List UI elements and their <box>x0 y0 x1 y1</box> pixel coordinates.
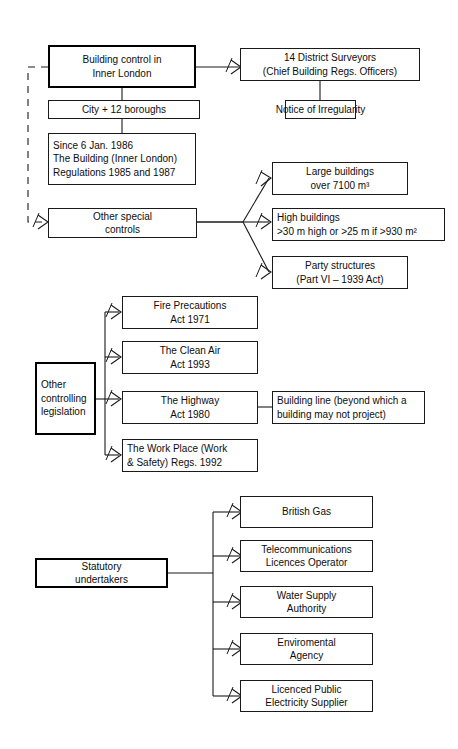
arrowtick-party <box>256 263 262 277</box>
arrowhead-workplace <box>111 448 121 462</box>
box-line: Large buildings <box>306 165 374 179</box>
box-line: The Building (Inner London) <box>53 152 177 166</box>
box-line: Act 1993 <box>170 358 209 372</box>
arrowhead-special <box>38 215 48 229</box>
box-line: undertakers <box>75 573 128 587</box>
box-line: City + 12 boroughs <box>82 103 166 117</box>
arrowtick-high <box>256 213 262 227</box>
arrowtick-workplace <box>106 446 112 460</box>
link-special-to-party <box>243 222 269 272</box>
box-line: High buildings <box>277 211 340 225</box>
arrowtick-telecom <box>227 547 233 561</box>
link-root-to-special-dashed <box>28 67 48 222</box>
box-line: controls <box>105 223 140 237</box>
box-line: Other special <box>93 210 152 224</box>
box-line: Agency <box>290 649 323 663</box>
box-line: Other <box>41 378 66 392</box>
box-highway-act[interactable]: The Highway Act 1980 <box>122 391 258 424</box>
box-line: Building control in <box>83 53 162 67</box>
box-line: legislation <box>41 405 85 419</box>
box-line: Since 6 Jan. 1986 <box>53 139 133 153</box>
arrowhead-highway <box>111 392 121 406</box>
box-high-buildings[interactable]: High buildings >30 m high or >25 m if >9… <box>272 208 445 241</box>
arrowtick-highway <box>106 390 112 404</box>
box-statutory-undertakers[interactable]: Statutory undertakers <box>35 558 168 588</box>
box-large-buildings[interactable]: Large buildings over 7100 m³ <box>272 162 408 195</box>
arrowtick-surveyors <box>226 58 232 72</box>
box-city-plus-12-boroughs[interactable]: City + 12 boroughs <box>48 100 200 119</box>
arrowtick-special <box>33 213 39 227</box>
box-line: 14 District Surveyors <box>284 51 376 65</box>
box-line: Telecommunications <box>261 543 352 557</box>
box-environmental-agency[interactable]: Enviromental Agency <box>240 633 373 665</box>
box-line: Act 1971 <box>170 313 209 327</box>
arrowtick-water <box>227 593 233 607</box>
box-line: Authority <box>287 602 326 616</box>
box-clean-air-act[interactable]: The Clean Air Act 1993 <box>122 341 258 374</box>
box-line: (Chief Building Regs. Officers) <box>263 65 397 79</box>
box-building-control-inner-london[interactable]: Building control in Inner London <box>48 45 196 88</box>
box-line: Party structures <box>305 259 375 273</box>
box-other-controlling-legislation[interactable]: Other controlling legislation <box>35 362 96 435</box>
box-line: over 7100 m³ <box>311 179 370 193</box>
box-british-gas[interactable]: British Gas <box>240 496 373 528</box>
box-line: Licences Operator <box>266 556 348 570</box>
box-line: Statutory <box>81 560 121 574</box>
box-line: Enviromental <box>277 636 335 650</box>
box-licenced-public-electricity-supplier[interactable]: Licenced Public Electricity Supplier <box>240 680 373 712</box>
arrowtick-gas <box>227 503 233 517</box>
box-party-structures[interactable]: Party structures (Part VI – 1939 Act) <box>272 256 408 289</box>
arrowtick-cleanair <box>106 348 112 362</box>
box-line: & Safety) Regs. 1992 <box>127 456 222 470</box>
box-line: Building line (beyond which a <box>277 394 407 408</box>
arrowhead-party <box>261 265 271 279</box>
arrowhead-large <box>261 172 271 186</box>
box-line: The Highway <box>161 394 219 408</box>
box-notice-of-irregularity[interactable]: Notice of Irregularity <box>285 100 356 119</box>
box-line: Act 1980 <box>170 408 209 422</box>
box-line: controlling <box>41 392 87 406</box>
box-line: building may not project) <box>277 408 386 422</box>
arrowtick-fire <box>106 303 112 317</box>
box-fire-precautions-act[interactable]: Fire Precautions Act 1971 <box>122 296 258 329</box>
arrowhead-fire <box>111 305 121 319</box>
arrowhead-high <box>261 215 271 229</box>
box-building-line-note[interactable]: Building line (beyond which a building m… <box>272 391 425 424</box>
box-line: (Part VI – 1939 Act) <box>296 273 383 287</box>
arrowhead-cleanair <box>111 350 121 364</box>
box-line: Electricity Supplier <box>265 696 347 710</box>
box-line: Water Supply <box>277 589 337 603</box>
box-other-special-controls[interactable]: Other special controls <box>48 208 197 238</box>
box-line: Fire Precautions <box>154 299 227 313</box>
box-line: The Clean Air <box>160 344 221 358</box>
box-work-place-regs[interactable]: The Work Place (Work & Safety) Regs. 199… <box>122 439 258 472</box>
link-special-to-large <box>243 178 269 222</box>
box-line: The Work Place (Work <box>127 442 227 456</box>
box-line: Regulations 1985 and 1987 <box>53 166 175 180</box>
arrowtick-environmental <box>227 640 233 654</box>
box-telecommunications-licences-operator[interactable]: Telecommunications Licences Operator <box>240 540 373 572</box>
box-line: British Gas <box>282 505 331 519</box>
box-line: Notice of Irregularity <box>276 103 365 117</box>
box-line: >30 m high or >25 m if >930 m² <box>277 225 417 239</box>
diagram-canvas: Building control in Inner London 14 Dist… <box>0 0 458 749</box>
box-water-supply-authority[interactable]: Water Supply Authority <box>240 586 373 618</box>
arrowtick-electricity <box>227 687 233 701</box>
box-14-district-surveyors[interactable]: 14 District Surveyors (Chief Building Re… <box>240 48 420 81</box>
box-inner-london-regulations[interactable]: Since 6 Jan. 1986 The Building (Inner Lo… <box>48 133 196 185</box>
arrowtick-large <box>256 170 262 184</box>
box-line: Inner London <box>93 67 152 81</box>
box-line: Licenced Public <box>271 683 341 697</box>
